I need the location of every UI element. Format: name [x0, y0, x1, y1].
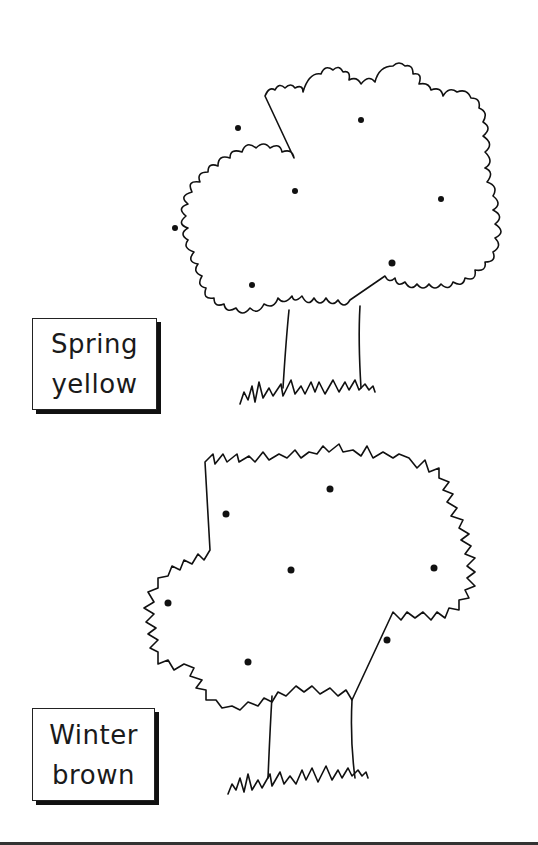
fruit-dot	[384, 637, 391, 644]
label-season: Winter	[49, 715, 138, 755]
label-color: brown	[52, 755, 135, 795]
fruit-dot	[165, 600, 172, 607]
grass	[228, 766, 368, 794]
fruit-dot	[431, 565, 438, 572]
trunk-left	[268, 696, 272, 778]
fruit-dot	[327, 486, 334, 493]
fruit-dots	[165, 486, 438, 666]
fruit-dot	[245, 659, 252, 666]
trunk-right	[351, 700, 355, 778]
fruit-dot	[288, 567, 295, 574]
fruit-dot	[223, 511, 230, 518]
label-box-winter: Winter brown	[32, 708, 155, 801]
canopy-outline	[144, 444, 475, 710]
